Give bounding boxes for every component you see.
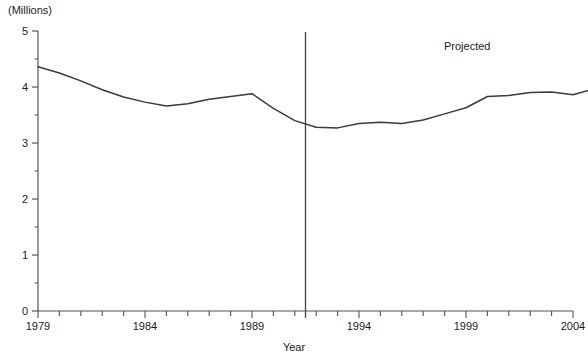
y-axis-tick-label: 0 xyxy=(6,305,28,317)
x-axis-tick-label: 1994 xyxy=(336,320,382,332)
y-axis-tick-label: 5 xyxy=(6,25,28,37)
x-axis-title: Year xyxy=(0,341,588,353)
y-axis-unit-label: (Millions) xyxy=(8,4,52,16)
y-axis-ticks xyxy=(32,31,38,311)
x-axis-tick-label: 1979 xyxy=(15,320,61,332)
y-axis-tick-label: 4 xyxy=(6,81,28,93)
y-axis-tick-label: 2 xyxy=(6,193,28,205)
projected-annotation-label: Projected xyxy=(444,40,490,52)
x-axis-tick-label: 2004 xyxy=(550,320,588,332)
chart-container: (Millions) 012345 1979198419891994199920… xyxy=(0,0,588,362)
x-axis-tick-label: 1999 xyxy=(443,320,489,332)
data-series-group xyxy=(38,67,588,128)
y-axis-tick-label: 1 xyxy=(6,249,28,261)
x-axis-tick-label: 1989 xyxy=(229,320,275,332)
line-chart-plot xyxy=(0,0,588,362)
y-axis-tick-label: 3 xyxy=(6,137,28,149)
data-series-line xyxy=(38,67,588,128)
x-axis-tick-label: 1984 xyxy=(122,320,168,332)
